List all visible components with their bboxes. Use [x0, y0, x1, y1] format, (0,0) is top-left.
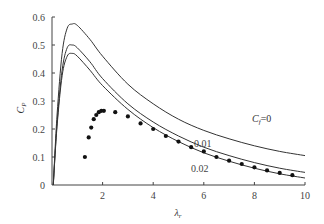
- x-tick-label: 8: [252, 190, 257, 201]
- y-tick-label: 0.4: [33, 68, 46, 79]
- data-point: [164, 134, 168, 138]
- x-tick-label: 4: [151, 190, 156, 201]
- curve-cf-0: [53, 24, 305, 185]
- data-point: [151, 127, 155, 131]
- data-point: [252, 165, 256, 169]
- data-point: [83, 155, 87, 159]
- data-point: [202, 149, 206, 153]
- data-point: [138, 121, 142, 125]
- data-point: [92, 117, 96, 121]
- data-point: [102, 109, 106, 113]
- y-tick-label: 0.1: [33, 152, 46, 163]
- data-point: [126, 114, 130, 118]
- label-cf-0: Cf=0: [252, 113, 271, 126]
- data-point: [113, 110, 117, 114]
- axes: 00.10.20.30.40.50.6246810: [33, 12, 311, 202]
- data-point: [176, 140, 180, 144]
- label-cf-001: 0.01: [194, 138, 212, 149]
- y-tick-label: 0.3: [33, 96, 46, 107]
- x-tick-label: 10: [300, 190, 310, 201]
- y-tick-label: 0.2: [33, 124, 46, 135]
- cp-vs-lambda-chart: 00.10.20.30.40.50.6246810 CP λr Cf=0 0.0…: [0, 0, 324, 224]
- data-point: [240, 162, 244, 166]
- x-axis-label: λr: [173, 207, 181, 220]
- y-tick-label: 0.6: [33, 12, 46, 23]
- data-point: [227, 159, 231, 163]
- data-point: [87, 135, 91, 139]
- data-point: [278, 171, 282, 175]
- x-tick-label: 2: [100, 190, 105, 201]
- y-axis-label: CP: [15, 102, 28, 114]
- x-tick-label: 6: [201, 190, 206, 201]
- data-point: [189, 145, 193, 149]
- data-point: [89, 126, 93, 130]
- data-point: [290, 173, 294, 177]
- data-point: [214, 155, 218, 159]
- y-tick-label: 0: [40, 180, 45, 191]
- curves: [53, 24, 305, 185]
- y-tick-label: 0.5: [33, 40, 46, 51]
- label-cf-002: 0.02: [191, 163, 209, 174]
- data-point: [265, 168, 269, 172]
